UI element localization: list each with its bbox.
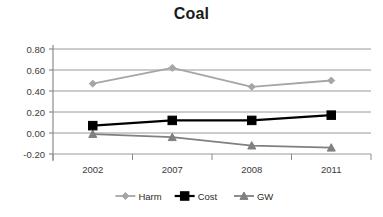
y-axis-label: 0.60	[27, 65, 46, 76]
x-tick-marks	[53, 154, 371, 160]
y-axis-label: 0.20	[27, 107, 46, 118]
coal-chart: Coal 0.800.600.400.200.00-0.20 200220072…	[0, 0, 383, 217]
legend-item-cost[interactable]: Cost	[175, 191, 218, 202]
y-axis-tick-labels: 0.800.600.400.200.00-0.20	[23, 44, 45, 160]
legend-label: Cost	[198, 191, 218, 202]
legend-label: Harm	[138, 191, 161, 202]
chart-svg: 0.800.600.400.200.00-0.20 20022007200820…	[0, 0, 383, 217]
series-cost	[89, 111, 336, 130]
series-line	[93, 115, 332, 126]
x-axis-label: 2002	[82, 164, 103, 175]
gridlines	[53, 49, 371, 154]
data-series-layer	[89, 64, 336, 151]
legend-item-harm[interactable]: Harm	[115, 191, 161, 202]
data-point-square-marker	[180, 192, 189, 201]
x-axis-label: 2011	[321, 164, 341, 175]
legend-item-gw[interactable]: GW	[234, 191, 273, 202]
series-line	[93, 68, 332, 87]
data-point-diamond-marker	[328, 77, 335, 84]
y-axis-label: 0.80	[27, 44, 46, 55]
x-axis-tick-labels: 2002200720082011	[82, 164, 341, 175]
data-point-diamond-marker	[122, 193, 129, 200]
series-line	[93, 134, 332, 148]
x-axis-label: 2008	[241, 164, 262, 175]
data-point-square-marker	[168, 116, 177, 125]
chart-legend: HarmCostGW	[115, 191, 273, 202]
y-axis-label: 0.00	[27, 128, 46, 139]
data-point-diamond-marker	[248, 83, 255, 90]
data-point-square-marker	[327, 111, 336, 120]
data-point-square-marker	[248, 116, 257, 125]
legend-label: GW	[257, 191, 273, 202]
x-axis-label: 2007	[162, 164, 183, 175]
data-point-diamond-marker	[89, 80, 96, 87]
plot-area: 0.800.600.400.200.00-0.20 20022007200820…	[0, 0, 383, 217]
data-point-square-marker	[89, 121, 98, 129]
y-axis-label: 0.40	[27, 86, 46, 97]
series-harm	[89, 64, 335, 90]
y-axis-label: -0.20	[23, 149, 45, 160]
